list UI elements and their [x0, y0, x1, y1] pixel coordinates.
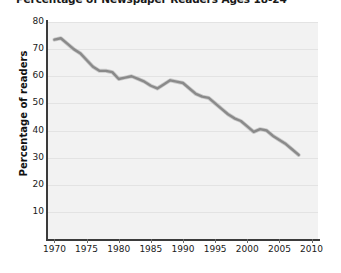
- y-tick-label-50: 50: [22, 97, 44, 107]
- gridline-y-60: [48, 76, 318, 77]
- y-tick-label-70: 70: [22, 43, 44, 53]
- y-axis-line: [46, 20, 48, 241]
- gridline-y-40: [48, 131, 318, 132]
- chart-title: Percentage of Newspaper Readers Ages 18-…: [16, 0, 336, 6]
- plot-area: [48, 22, 318, 239]
- gridline-y-10: [48, 212, 318, 213]
- x-tick-mark-1980: [119, 239, 120, 243]
- x-tick-mark-1990: [183, 239, 184, 243]
- y-axis-tick-labels: 8070605040302010: [20, 0, 44, 273]
- y-tick-label-40: 40: [22, 125, 44, 135]
- gridlines-layer: [48, 22, 318, 239]
- x-tick-mark-2010: [312, 239, 313, 243]
- gridline-y-20: [48, 185, 318, 186]
- y-tick-label-20: 20: [22, 179, 44, 189]
- x-tick-mark-1995: [215, 239, 216, 243]
- gridline-y-80: [48, 22, 318, 23]
- x-tick-mark-2000: [247, 239, 248, 243]
- x-tick-mark-2005: [279, 239, 280, 243]
- x-tick-mark-1970: [54, 239, 55, 243]
- gridline-y-50: [48, 103, 318, 104]
- gridline-y-70: [48, 49, 318, 50]
- chart-figure: Percentage of Newspaper Readers Ages 18-…: [0, 0, 341, 273]
- y-tick-label-60: 60: [22, 70, 44, 80]
- x-tick-mark-1975: [87, 239, 88, 243]
- x-tick-mark-1985: [151, 239, 152, 243]
- gridline-y-30: [48, 158, 318, 159]
- y-tick-label-30: 30: [22, 152, 44, 162]
- x-tick-label-2010: 2010: [292, 244, 332, 254]
- y-tick-label-10: 10: [22, 206, 44, 216]
- y-tick-label-80: 80: [22, 16, 44, 26]
